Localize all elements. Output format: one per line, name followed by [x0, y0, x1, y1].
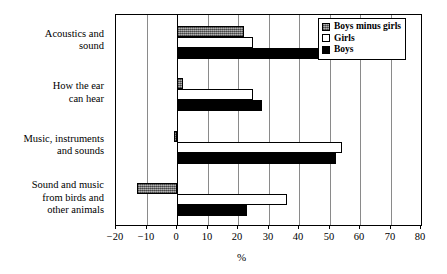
bar-boys [177, 153, 336, 164]
legend-item[interactable]: Boys minus girls [322, 21, 401, 33]
category-label-line: sound [0, 40, 104, 53]
x-axis-tick [329, 225, 330, 229]
bar-girls [177, 89, 253, 100]
category-axis-labels: Acoustics andsoundHow the earcan hearMus… [0, 14, 110, 224]
bar-boys-minus-girls [177, 78, 183, 89]
category-label: Music, instrumentsand sounds [0, 133, 104, 158]
x-axis-tick [146, 225, 147, 229]
x-axis-tick-label: 60 [342, 231, 376, 242]
legend-swatch-icon [322, 23, 330, 31]
x-axis-tick [207, 225, 208, 229]
category-label-line: can hear [0, 93, 104, 106]
category-label-line: other animals [0, 204, 104, 217]
category-label: How the earcan hear [0, 80, 104, 105]
legend-label: Boys [334, 44, 354, 56]
x-axis-tick [268, 225, 269, 229]
bar-boys-minus-girls [177, 26, 244, 37]
category-label-line: How the ear [0, 80, 104, 93]
legend-item[interactable]: Boys [322, 44, 401, 56]
x-axis-title-text: % [237, 251, 246, 263]
x-axis-tick-label: −20 [98, 231, 132, 242]
x-axis-tick-label: 20 [220, 231, 254, 242]
x-axis-tick [390, 225, 391, 229]
bar-boys-minus-girls [137, 183, 177, 194]
bar-girls [177, 194, 287, 205]
category-label-line: Acoustics and [0, 28, 104, 41]
bar-boys [177, 205, 247, 216]
x-axis-tick [420, 225, 421, 229]
x-axis-title: % [0, 251, 447, 263]
x-axis-tick-label: 40 [281, 231, 315, 242]
category-label-line: from birds and [0, 192, 104, 205]
bar-girls [177, 37, 253, 48]
x-axis-tick [115, 225, 116, 229]
x-axis-tick-label: 0 [159, 231, 193, 242]
bar-girls [177, 142, 342, 153]
category-label-line: Sound and music [0, 179, 104, 192]
x-axis-tick [359, 225, 360, 229]
legend-label: Girls [334, 33, 355, 45]
x-axis-tick-label: 50 [312, 231, 346, 242]
bar-boys [177, 48, 320, 59]
legend-swatch-icon [322, 34, 330, 42]
x-axis-tick [176, 225, 177, 229]
x-axis-tick [237, 225, 238, 229]
category-label: Acoustics andsound [0, 28, 104, 53]
category-label-line: Music, instruments [0, 133, 104, 146]
bar-chart: Acoustics andsoundHow the earcan hearMus… [0, 0, 447, 274]
gridline-40 [299, 15, 300, 225]
legend-item[interactable]: Girls [322, 33, 401, 45]
bar-boys-minus-girls [174, 131, 177, 142]
legend-label: Boys minus girls [334, 21, 401, 33]
category-label: Sound and musicfrom birds andother anima… [0, 179, 104, 217]
chart-legend: Boys minus girlsGirlsBoys [318, 18, 406, 60]
x-axis-tick-label: 30 [251, 231, 285, 242]
x-axis-tick [298, 225, 299, 229]
legend-swatch-icon [322, 46, 330, 54]
x-axis-tick-label: −10 [129, 231, 163, 242]
x-axis-tick-label: 70 [373, 231, 407, 242]
x-axis-tick-label: 10 [190, 231, 224, 242]
category-label-line: and sounds [0, 145, 104, 158]
x-axis-tick-label: 80 [403, 231, 437, 242]
bar-boys [177, 100, 262, 111]
